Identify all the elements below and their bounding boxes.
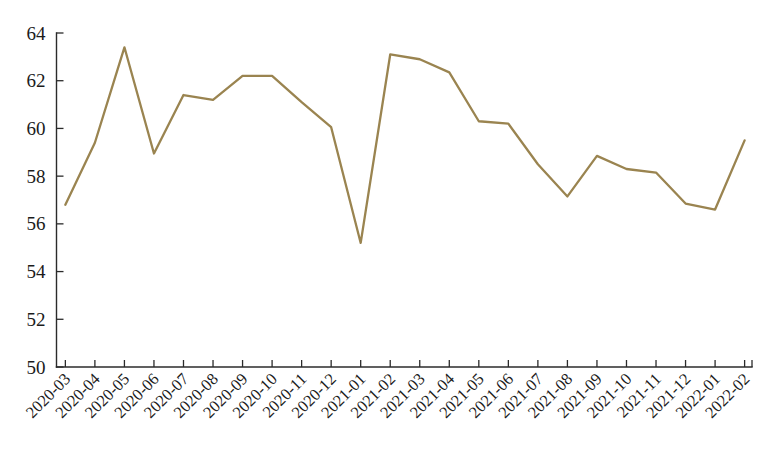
line-chart-figure: 50525456586062642020-032020-042020-05202… xyxy=(0,0,773,474)
y-tick-label: 52 xyxy=(27,309,46,330)
y-tick-label: 56 xyxy=(27,213,46,234)
y-tick-label: 50 xyxy=(27,357,46,378)
y-tick-label: 54 xyxy=(27,261,47,282)
y-tick-label: 64 xyxy=(27,23,47,44)
y-tick-label: 58 xyxy=(27,166,46,187)
y-tick-label: 62 xyxy=(27,70,46,91)
y-tick-label: 60 xyxy=(27,118,46,139)
data-series-line xyxy=(65,47,744,243)
chart-canvas: 50525456586062642020-032020-042020-05202… xyxy=(0,0,773,474)
